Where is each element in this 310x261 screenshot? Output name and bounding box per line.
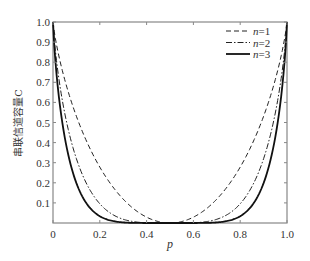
series-line-n1 [53, 22, 287, 223]
y-tick-label: 0.8 [36, 56, 50, 68]
series-line-n2 [53, 22, 287, 223]
y-axis-ticks: 0.10.20.30.40.50.60.70.80.91.0 [36, 16, 287, 209]
x-tick-label: 0.2 [93, 228, 107, 240]
x-tick-label: 0.8 [233, 228, 247, 240]
y-axis-label: 串联信道容量C [12, 89, 24, 157]
x-tick-label: 0.6 [187, 228, 201, 240]
x-tick-label: 0.4 [140, 228, 154, 240]
legend-label: n=2 [253, 37, 270, 49]
y-tick-label: 0.6 [36, 96, 50, 108]
legend-label: n=3 [253, 48, 271, 60]
series-line-n3 [53, 22, 287, 223]
legend: n=1n=2n=3 [226, 25, 271, 60]
y-tick-label: 0.2 [36, 177, 50, 189]
series-curves [53, 22, 287, 223]
y-tick-label: 1.0 [36, 16, 50, 28]
x-axis-label: p [166, 237, 173, 251]
y-tick-label: 0.3 [36, 157, 50, 169]
y-tick-label: 0.9 [36, 36, 50, 48]
plot-border [53, 22, 287, 223]
y-tick-label: 0.5 [36, 117, 50, 129]
y-tick-label: 0.7 [36, 76, 50, 88]
y-tick-label: 0.1 [36, 197, 50, 209]
x-tick-label: 0 [50, 228, 56, 240]
plot-area [53, 22, 287, 223]
y-tick-label: 0.4 [36, 137, 50, 149]
chart-figure: 00.20.40.60.81.0 0.10.20.30.40.50.60.70.… [0, 0, 310, 261]
legend-label: n=1 [253, 25, 270, 37]
x-tick-label: 1.0 [280, 228, 294, 240]
